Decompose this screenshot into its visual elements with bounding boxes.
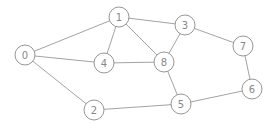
node-label: 7 xyxy=(240,41,246,52)
node-0: 0 xyxy=(15,45,35,65)
graph-diagram: 012345678 xyxy=(0,0,274,124)
node-label: 4 xyxy=(101,58,107,69)
node-label: 2 xyxy=(91,105,97,116)
node-label: 8 xyxy=(161,57,167,68)
node-label: 5 xyxy=(178,99,184,110)
node-8: 8 xyxy=(154,52,174,72)
node-3: 3 xyxy=(175,15,195,35)
edge-2-5 xyxy=(94,104,181,110)
node-2: 2 xyxy=(84,100,104,120)
node-7: 7 xyxy=(233,36,253,56)
node-4: 4 xyxy=(94,53,114,73)
edge-0-1 xyxy=(25,17,119,55)
edge-0-2 xyxy=(25,55,94,110)
nodes-layer: 012345678 xyxy=(15,7,262,120)
node-label: 6 xyxy=(249,84,255,95)
node-5: 5 xyxy=(171,94,191,114)
node-label: 1 xyxy=(116,12,122,23)
node-label: 3 xyxy=(182,20,188,31)
edge-5-6 xyxy=(181,89,252,104)
node-6: 6 xyxy=(242,79,262,99)
edge-0-4 xyxy=(25,55,104,63)
edges-layer xyxy=(25,17,252,110)
node-label: 0 xyxy=(22,50,28,61)
node-1: 1 xyxy=(109,7,129,27)
